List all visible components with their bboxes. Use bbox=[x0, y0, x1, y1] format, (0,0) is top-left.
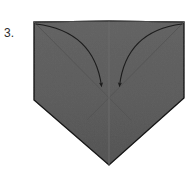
origami-illustration bbox=[0, 0, 195, 170]
origami-diagram-figure: 3. bbox=[0, 0, 195, 170]
